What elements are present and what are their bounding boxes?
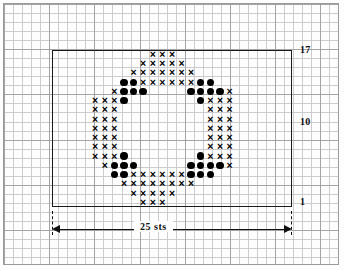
cross-stitch-symbol: ×: [138, 198, 148, 207]
cross-stitch-symbol: ×: [148, 198, 158, 207]
cross-stitch-symbol: ×: [158, 78, 168, 87]
dot-symbol: [196, 170, 206, 179]
dot-symbol: [206, 78, 216, 87]
dot-symbol: [186, 87, 196, 96]
cross-stitch-symbol: ×: [177, 179, 187, 188]
cross-stitch-symbol: ×: [158, 198, 168, 207]
cross-stitch-symbol: ×: [186, 179, 196, 188]
cross-stitch-symbol: ×: [129, 68, 139, 77]
cross-stitch-symbol: ×: [90, 152, 100, 161]
cross-stitch-symbol: ×: [225, 161, 235, 170]
dot-symbol: [186, 161, 196, 170]
cross-stitch-symbol: ×: [138, 78, 148, 87]
cross-stitch-symbol: ×: [206, 152, 216, 161]
dot-symbol: [196, 87, 206, 96]
dot-symbol: [119, 87, 129, 96]
dot-symbol: [196, 96, 206, 105]
dot-symbol: [129, 78, 139, 87]
dimension-label: 25 sts: [134, 221, 173, 232]
cross-stitch-symbol: ×: [100, 161, 110, 170]
dot-symbol: [206, 170, 216, 179]
cross-stitch-symbol: ×: [167, 189, 177, 198]
dot-symbol: [215, 161, 225, 170]
dot-symbol: [119, 161, 129, 170]
dot-symbol: [196, 78, 206, 87]
dot-symbol: [196, 161, 206, 170]
dot-symbol: [196, 152, 206, 161]
cross-stitch-symbol: ×: [186, 78, 196, 87]
dot-symbol: [206, 161, 216, 170]
width-dimension: 25 sts: [52, 211, 292, 241]
cross-stitch-symbol: ×: [129, 189, 139, 198]
dot-symbol: [129, 87, 139, 96]
dot-symbol: [138, 87, 148, 96]
cross-stitch-symbol: ×: [148, 78, 158, 87]
cross-stitch-symbol: ×: [167, 78, 177, 87]
dot-symbol: [119, 152, 129, 161]
row-label-bottom: 1: [300, 196, 305, 207]
dot-symbol: [110, 170, 120, 179]
cross-stitch-symbol: ×: [110, 152, 120, 161]
stitch-grid: ××××××××××××××××××××××××××××××××××××××××…: [52, 50, 292, 207]
cross-stitch-symbol: ×: [215, 152, 225, 161]
row-label-top: 17: [300, 44, 311, 55]
dot-symbol: [119, 78, 129, 87]
chart-page: ××××××××××××××××××××××××××××××××××××××××…: [0, 0, 344, 270]
cross-stitch-symbol: ×: [119, 179, 129, 188]
row-label-middle: 10: [300, 116, 311, 127]
dot-symbol: [110, 161, 120, 170]
arrow-head-right: [284, 225, 292, 233]
dot-symbol: [119, 96, 129, 105]
cross-stitch-symbol: ×: [177, 78, 187, 87]
